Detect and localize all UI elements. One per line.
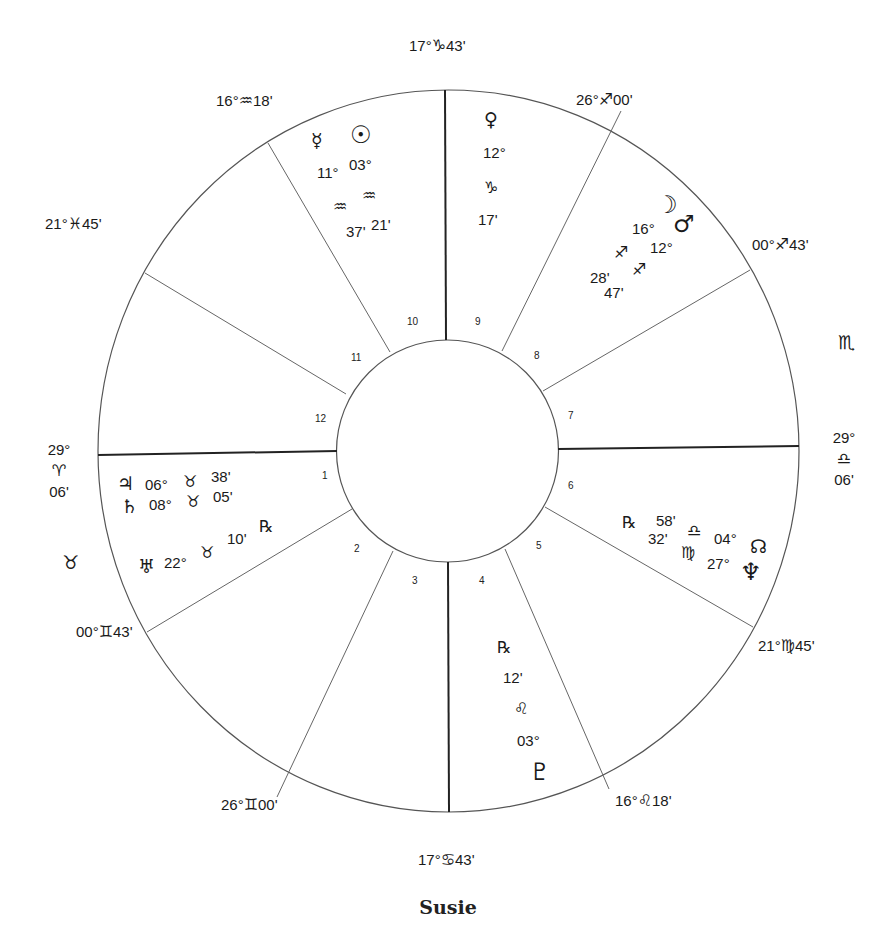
- cusp-label-ic: 17°♋43': [418, 852, 475, 868]
- sagittarius-icon: ♐: [632, 262, 646, 278]
- cusp-label-asc: 29°♈06': [45, 439, 73, 502]
- mercury-icon: ☿: [311, 131, 323, 150]
- uranus-minutes: 10': [227, 531, 247, 546]
- leo-icon: ♌: [514, 701, 528, 717]
- house-number-9: 9: [475, 316, 481, 327]
- uranus-degree: 22°: [164, 555, 187, 570]
- cusp-label-8: 00°♐43': [752, 237, 809, 253]
- cusp-label-9: 26°♐00': [576, 92, 633, 108]
- virgo-icon: ♍: [781, 636, 795, 655]
- mars-icon: ♂: [673, 212, 695, 236]
- retrograde-icon: ℞: [622, 515, 636, 531]
- aquarius-icon: ♒: [239, 91, 253, 110]
- pisces-icon: ♓: [68, 214, 82, 233]
- neptune-minutes: 32': [648, 531, 668, 546]
- jupiter-minutes: 38': [211, 469, 231, 484]
- saturn-icon: ♄: [121, 497, 138, 516]
- jupiter-degree: 06°: [145, 477, 168, 492]
- house-number-4: 4: [479, 575, 485, 586]
- taurus-icon: ♉: [200, 545, 214, 561]
- north-node-icon: ☊: [750, 537, 767, 556]
- house-number-8: 8: [534, 350, 540, 361]
- taurus-icon: ♉: [186, 494, 200, 510]
- house-number-3: 3: [412, 575, 418, 586]
- cusp-label-3: 26°♊00': [221, 797, 278, 813]
- aries-icon: ♈: [45, 460, 73, 481]
- retrograde-icon: ℞: [259, 519, 273, 535]
- cusp-3: [277, 551, 393, 797]
- uranus-icon: ♅: [138, 557, 155, 576]
- inner-circle: [337, 340, 559, 562]
- virgo-icon: ♍: [681, 545, 695, 561]
- venus-degree: 12°: [483, 145, 506, 160]
- sun-icon: ☉: [350, 123, 372, 147]
- sun-minutes: 21': [371, 217, 391, 232]
- node-degree: 04°: [714, 531, 737, 546]
- pluto-icon: ♇: [529, 760, 551, 784]
- mc-ic-axis-bottom: [448, 562, 449, 812]
- capricorn-icon: ♑: [432, 36, 446, 55]
- chart-title: Susie: [0, 896, 896, 918]
- house-number-12: 12: [315, 413, 326, 424]
- cusp-label-6: 21°♍45': [758, 638, 815, 654]
- neptune-degree: 27°: [707, 556, 730, 571]
- dsc-axis: [558, 446, 799, 449]
- libra-icon: ♎: [830, 448, 858, 469]
- mercury-minutes: 37': [346, 224, 366, 239]
- mars-degree: 12°: [650, 240, 673, 255]
- mc-ic-axis-top: [445, 90, 446, 340]
- moon-degree: 16°: [632, 221, 655, 236]
- capricorn-icon: ♑: [484, 180, 498, 196]
- pluto-minutes: 12': [503, 670, 523, 685]
- saturn-degree: 08°: [149, 497, 172, 512]
- house-number-6: 6: [568, 480, 574, 491]
- cusp-label-2: 00°♊43': [76, 624, 133, 640]
- jupiter-icon: ♃: [117, 474, 134, 493]
- cusp-label-dsc: 29°♎06': [830, 427, 858, 490]
- libra-icon: ♎: [687, 523, 701, 539]
- mars-minutes: 47': [604, 285, 624, 300]
- cancer-icon: ♋: [441, 850, 455, 869]
- taurus-intercepted-icon: ♉: [62, 553, 79, 572]
- leo-icon: ♌: [638, 791, 652, 810]
- moon-minutes: 28': [590, 270, 610, 285]
- retrograde-icon: ℞: [497, 640, 511, 656]
- house-number-7: 7: [568, 410, 574, 421]
- house-number-11: 11: [351, 352, 361, 363]
- cusp-8: [543, 270, 750, 391]
- sagittarius-icon: ♐: [775, 235, 789, 254]
- saturn-minutes: 05': [213, 489, 233, 504]
- sagittarius-icon: ♐: [614, 245, 628, 261]
- neptune-icon: ♆: [740, 560, 762, 584]
- aquarius-icon: ♒: [362, 188, 376, 204]
- mercury-degree: 11°: [317, 165, 339, 180]
- venus-icon: ♀: [484, 110, 498, 129]
- house-number-10: 10: [407, 316, 418, 327]
- chart-wheel: [0, 0, 896, 948]
- cusp-label-5: 16°♌18': [615, 793, 672, 809]
- asc-axis: [98, 451, 337, 455]
- gemini-icon: ♊: [244, 795, 258, 814]
- house-number-5: 5: [536, 540, 542, 551]
- node-minutes: 58': [656, 513, 676, 528]
- venus-minutes: 17': [478, 212, 498, 227]
- taurus-icon: ♉: [183, 474, 197, 490]
- sagittarius-icon: ♐: [599, 90, 613, 109]
- aquarius-icon: ♒: [333, 199, 347, 215]
- cusp-label-mc: 17°♑43': [409, 38, 466, 54]
- house-number-1: 1: [322, 470, 328, 481]
- cusp-9: [502, 111, 621, 351]
- cusp-12: [145, 273, 346, 394]
- pluto-degree: 03°: [517, 733, 540, 748]
- house-number-2: 2: [354, 543, 360, 554]
- gemini-icon: ♊: [99, 622, 113, 641]
- cusp-label-11: 16°♒18': [216, 93, 273, 109]
- scorpio-intercepted-icon: ♏: [838, 333, 855, 352]
- sun-degree: 03°: [349, 157, 372, 172]
- cusp-label-12: 21°♓45': [45, 216, 102, 232]
